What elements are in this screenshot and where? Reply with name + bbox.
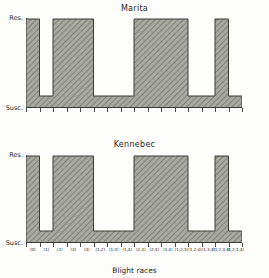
x-axis-ticks-marita — [26, 108, 242, 112]
x-axis-tick — [80, 108, 81, 112]
panel-marita: Marita Res. Susc. — [0, 0, 269, 135]
x-axis-tick — [215, 108, 216, 112]
plot-area-marita: Res. Susc. — [26, 18, 242, 108]
x-axis-tick — [202, 108, 203, 112]
x-axis-tick — [107, 108, 108, 112]
x-axis-tick-label: (1,2) — [96, 247, 105, 253]
x-axis-tick-label: (1,2,3,4) — [227, 247, 244, 253]
x-axis-tick-label: (1) — [43, 247, 49, 253]
step-chart-marita — [26, 18, 242, 108]
x-axis-tick — [67, 108, 68, 112]
x-axis-tick-label: (1,4) — [123, 247, 132, 253]
x-axis-tick — [53, 108, 54, 112]
plot-area-kennebec: Res. Susc. — [26, 155, 242, 243]
y-axis-label-susc-marita: Susc. — [6, 104, 23, 112]
x-axis-tick — [26, 108, 27, 112]
y-axis-label-res-marita: Res. — [9, 14, 23, 22]
x-axis-tick-label: (2,3) — [136, 247, 145, 253]
step-chart-kennebec — [26, 155, 242, 243]
x-axis-tick — [148, 108, 149, 112]
figure-blight-race-reaction: Marita Res. Susc. Kennebec Res. Susc. — [0, 0, 269, 278]
x-axis-tick — [161, 108, 162, 112]
x-axis-tick-label: (2) — [57, 247, 63, 253]
x-axis-tick-label: (0) — [30, 247, 36, 253]
y-axis-label-susc-kennebec: Susc. — [6, 239, 23, 247]
x-axis-tick — [242, 108, 243, 112]
x-axis-tick-label: (2,4) — [150, 247, 159, 253]
x-axis-tick-label: (1,2,4) — [188, 247, 201, 253]
x-axis-tick — [175, 108, 176, 112]
x-axis-tick-label: (1,3) — [109, 247, 118, 253]
x-axis-tick — [40, 108, 41, 112]
panel-title-marita: Marita — [0, 4, 269, 13]
x-axis-tick-label: (4) — [84, 247, 90, 253]
x-axis-title: Blight races — [0, 266, 269, 275]
x-axis-tick-label: (3) — [70, 247, 76, 253]
panel-title-kennebec: Kennebec — [0, 140, 269, 149]
x-axis-tick-label: (1,2,3) — [175, 247, 188, 253]
panel-kennebec: Kennebec Res. Susc. (0)(1)(2)(3)(4)(1,2)… — [0, 135, 269, 278]
y-axis-label-res-kennebec: Res. — [9, 151, 23, 159]
x-axis-tick — [229, 108, 230, 112]
x-axis-tick — [94, 108, 95, 112]
x-axis-tick — [134, 108, 135, 112]
x-axis-tick-labels: (0)(1)(2)(3)(4)(1,2)(1,3)(1,4)(2,3)(2,4)… — [26, 247, 242, 259]
x-axis-tick — [188, 108, 189, 112]
x-axis-tick-label: (3,4) — [163, 247, 172, 253]
x-axis-tick — [121, 108, 122, 112]
